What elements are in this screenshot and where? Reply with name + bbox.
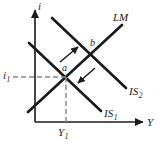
y-tick-label-i1: i1 (3, 70, 10, 81)
x-tick-subscript: 1 (65, 132, 69, 141)
x-tick-label-y1: Y1 (58, 127, 68, 138)
is2-label-base: IS (129, 85, 138, 97)
is2-curve-label: IS2 (129, 86, 142, 97)
shift-arrow-up-right (60, 47, 78, 62)
diagram-canvas (0, 0, 162, 144)
x-tick-base: Y (58, 126, 64, 138)
x-axis-label: Y (147, 117, 153, 128)
point-b-label: b (90, 38, 95, 48)
is1-label-base: IS (104, 107, 113, 119)
y-axis-label: i (38, 1, 41, 12)
is1-label-subscript: 1 (114, 113, 118, 122)
y-tick-subscript: 1 (7, 75, 11, 84)
point-a-label: a (62, 63, 67, 73)
shift-arrow-down-left (78, 68, 95, 83)
is-lm-diagram: i Y i1 Y1 LM IS2 IS1 a b (0, 0, 162, 144)
y-tick-base: i (3, 69, 6, 81)
is1-curve-label: IS1 (104, 108, 117, 119)
lm-curve-label: LM (113, 12, 128, 23)
is2-label-subscript: 2 (139, 91, 143, 100)
